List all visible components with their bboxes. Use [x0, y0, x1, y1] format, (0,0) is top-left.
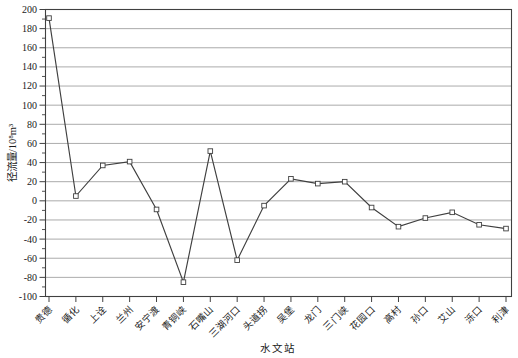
y-tick-label: 40: [27, 157, 37, 168]
data-point-marker: [154, 207, 159, 212]
data-point-marker: [450, 210, 455, 215]
data-point-marker: [504, 226, 509, 231]
data-point-marker: [235, 258, 240, 263]
data-point-marker: [100, 163, 105, 168]
y-tick-label: -40: [24, 234, 37, 245]
data-point-marker: [396, 224, 401, 229]
y-axis-title: 径流量/10⁸m³: [4, 124, 19, 182]
y-tick-label: 80: [27, 119, 37, 130]
y-tick-label: 200: [22, 4, 37, 15]
data-point-marker: [423, 216, 428, 221]
y-tick-label: 160: [22, 42, 37, 53]
x-tick-label: 上诠: [86, 303, 108, 325]
y-tick-label: 0: [32, 195, 37, 206]
x-tick-label: 贵德: [32, 303, 54, 325]
y-tick-label: -60: [24, 253, 37, 264]
x-tick-label: 花园口: [348, 303, 377, 332]
gridlines: [46, 29, 512, 278]
data-point-marker: [181, 280, 186, 285]
y-tick-label: 60: [27, 138, 37, 149]
x-tick-label: 安宁渡: [133, 303, 162, 332]
x-tick-label: 青铜峡: [160, 303, 189, 332]
x-tick-label: 兰州: [113, 303, 135, 325]
x-tick-label: 三门峡: [321, 303, 350, 332]
y-tick-label: 100: [22, 100, 37, 111]
x-tick-label: 头道拐: [240, 303, 269, 332]
data-point-marker: [477, 222, 482, 227]
data-point-marker: [262, 203, 267, 208]
x-tick-label: 孙口: [409, 303, 431, 325]
x-axis-title: 水文站: [260, 340, 296, 355]
data-point-marker: [74, 194, 79, 199]
y-tick-label: 20: [27, 176, 37, 187]
chart-canvas: -100-80-60-40-20020406080100120140160180…: [0, 0, 518, 358]
x-tick-label: 吴堡: [274, 303, 296, 325]
data-point-marker: [369, 205, 374, 210]
data-point-marker: [208, 149, 213, 154]
y-tick-label: -100: [19, 291, 37, 302]
y-tick-label: -80: [24, 272, 37, 283]
data-point-marker: [47, 16, 52, 21]
data-point-marker: [289, 177, 294, 182]
data-point-marker: [342, 179, 347, 184]
x-tick-label: 龙门: [301, 303, 323, 325]
x-tick-label: 泺口: [463, 303, 485, 325]
data-point-marker: [127, 159, 132, 164]
y-tick-label: 140: [22, 61, 37, 72]
x-tick-label: 循化: [59, 303, 81, 325]
series-line: [49, 18, 506, 282]
y-tick-label: -20: [24, 214, 37, 225]
y-tick-label: 120: [22, 80, 37, 91]
runoff-line-chart: -100-80-60-40-20020406080100120140160180…: [0, 0, 518, 358]
x-tick-label: 高村: [382, 303, 404, 325]
data-point-marker: [316, 181, 321, 186]
y-axis: -100-80-60-40-20020406080100120140160180…: [19, 4, 46, 302]
x-tick-label: 艾山: [436, 304, 457, 325]
y-tick-label: 180: [22, 23, 37, 34]
x-axis: 贵德循化上诠兰州安宁渡青铜峡石嘴山三湖河口头道拐吴堡龙门三门峡花园口高村孙口艾山…: [32, 297, 511, 340]
series-markers: [47, 16, 509, 285]
x-tick-label: 利津: [489, 303, 511, 325]
plot-border: [46, 10, 512, 297]
